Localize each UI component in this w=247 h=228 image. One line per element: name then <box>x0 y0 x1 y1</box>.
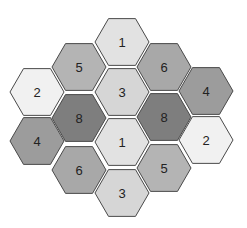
hex-label: 6 <box>160 60 167 75</box>
hex-label: 3 <box>118 186 125 201</box>
hex-label: 4 <box>202 84 209 99</box>
hex-cell: 1 <box>95 19 149 66</box>
hexagon-grid: 15623488412653 <box>0 0 247 228</box>
hex-label: 8 <box>75 111 82 126</box>
hex-label: 2 <box>33 85 40 100</box>
hex-label: 4 <box>33 134 40 149</box>
hex-label: 1 <box>118 35 125 50</box>
hex-cell: 3 <box>95 69 149 116</box>
hex-label: 8 <box>160 110 167 125</box>
hex-cell: 2 <box>10 69 64 116</box>
hex-cell: 1 <box>95 119 149 166</box>
hex-label: 5 <box>160 161 167 176</box>
hex-label: 6 <box>75 163 82 178</box>
hex-label: 2 <box>202 133 209 148</box>
hex-label: 3 <box>118 85 125 100</box>
hex-label: 5 <box>75 60 82 75</box>
hex-cell: 6 <box>52 147 106 194</box>
hex-label: 1 <box>118 135 125 150</box>
hex-cell: 3 <box>95 170 149 217</box>
hex-cell: 5 <box>52 44 106 91</box>
hex-cell: 5 <box>137 145 191 192</box>
